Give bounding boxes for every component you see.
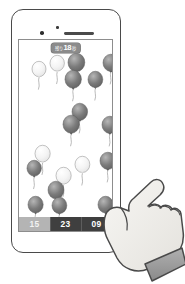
balloon[interactable] (73, 155, 92, 189)
timer-unit: 秒 (72, 47, 76, 51)
earpiece-speaker-grille (64, 32, 94, 35)
balloon-body (63, 115, 79, 133)
proximity-sensor-dot (56, 26, 59, 29)
balloon-string (39, 77, 40, 89)
balloon-knot (70, 133, 73, 135)
balloon-knot (94, 87, 97, 89)
balloon-body (27, 160, 41, 176)
balloon-body (100, 152, 112, 169)
balloon-knot (108, 133, 111, 135)
balloon-knot (38, 76, 41, 78)
balloon-string (73, 89, 74, 101)
balloon-knot (109, 71, 112, 73)
balloon[interactable] (101, 53, 112, 88)
phone-screen[interactable]: 残り 18 秒 15 23 09 (18, 39, 113, 232)
score-bar: 15 23 09 (19, 217, 112, 231)
balloon-string (71, 134, 72, 146)
balloon[interactable] (30, 60, 48, 93)
balloon-string (95, 88, 96, 100)
balloon-knot (56, 71, 59, 73)
balloon[interactable] (61, 114, 81, 150)
balloon-body (28, 196, 43, 213)
balloon[interactable] (63, 69, 83, 105)
balloon[interactable] (100, 115, 112, 150)
front-camera-dot (40, 31, 44, 35)
balloon-string (110, 72, 111, 84)
balloon-string (82, 173, 83, 185)
balloon[interactable] (25, 159, 43, 193)
balloon-body (52, 197, 67, 213)
score-cell-1: 15 (19, 217, 50, 231)
balloon-knot (81, 172, 84, 174)
balloon-knot (34, 213, 37, 215)
balloon-play-area[interactable]: 残り 18 秒 (19, 40, 112, 217)
balloon-body (103, 54, 112, 71)
pointing-hand-illustration (104, 168, 185, 284)
balloon-knot (72, 88, 75, 90)
score-cell-2: 23 (50, 217, 81, 231)
balloon-knot (33, 176, 36, 178)
balloon[interactable] (50, 196, 69, 217)
balloon-body (102, 116, 112, 133)
balloon-string (57, 72, 58, 84)
balloon-string (109, 134, 110, 146)
balloon-body (75, 156, 90, 172)
timer-label: 残り (55, 47, 63, 51)
balloon-body (32, 61, 46, 76)
countdown-timer-badge: 残り 18 秒 (51, 43, 80, 53)
balloon-string (34, 177, 35, 189)
balloon[interactable] (26, 195, 45, 217)
timer-value: 18 (63, 44, 71, 52)
illustration-canvas: 残り 18 秒 15 23 09 (0, 0, 185, 284)
balloon-knot (58, 213, 61, 215)
balloon-body (65, 70, 81, 88)
